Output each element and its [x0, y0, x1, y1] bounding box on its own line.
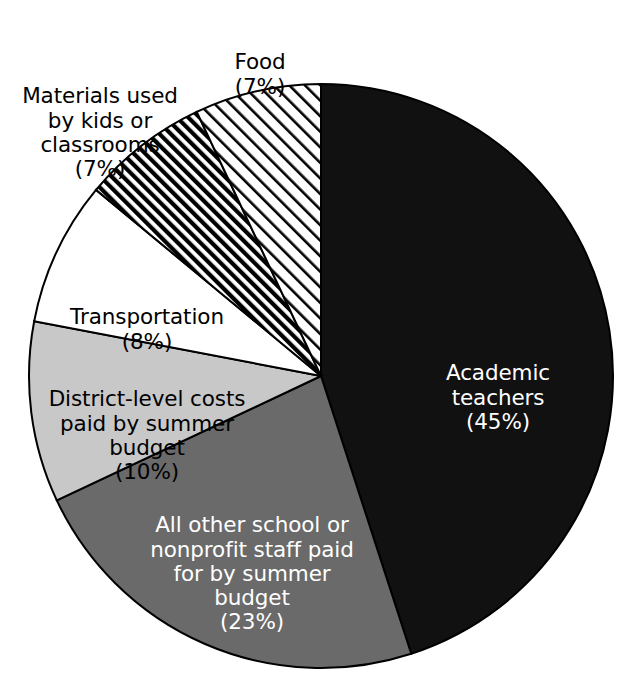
- pie-chart-canvas: [0, 0, 634, 697]
- pie-slices: [29, 84, 613, 668]
- pie-chart: Materials used by kids or classrooms (7%…: [0, 0, 634, 697]
